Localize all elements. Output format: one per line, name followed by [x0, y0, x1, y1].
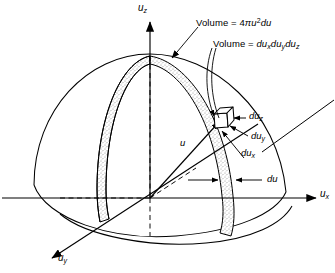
label-du: du [267, 173, 278, 184]
radius-vector-u [150, 122, 219, 198]
figure-canvas: uz ux uy Volume = 4πu2du Volume = duxduy… [0, 0, 335, 273]
spherical-shell-band [97, 56, 234, 236]
axis-label-uz: uz [138, 2, 147, 14]
axis-label-uy: uy [58, 252, 67, 264]
label-du-x: dux [241, 147, 255, 159]
annotation-cube-volume: Volume = duxduyduz [213, 38, 300, 50]
label-du-z: duz [249, 110, 263, 122]
annotation-shell-volume: Volume = 4πu2du [196, 17, 271, 28]
label-du-y: duy [251, 130, 265, 142]
label-radius-u: u [180, 137, 185, 148]
axis-label-ux: ux [320, 188, 329, 200]
volume-element-cube [214, 107, 234, 128]
